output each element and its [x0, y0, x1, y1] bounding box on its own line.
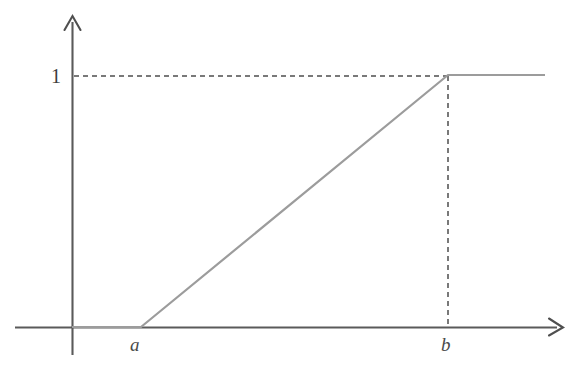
plot-svg	[0, 0, 574, 368]
figure-canvas: 1 a b	[0, 0, 574, 368]
x-tick-label-a: a	[130, 335, 140, 354]
ramp-curve	[72, 75, 545, 327]
x-tick-label-b: b	[441, 335, 451, 354]
y-tick-label-one: 1	[51, 66, 61, 86]
